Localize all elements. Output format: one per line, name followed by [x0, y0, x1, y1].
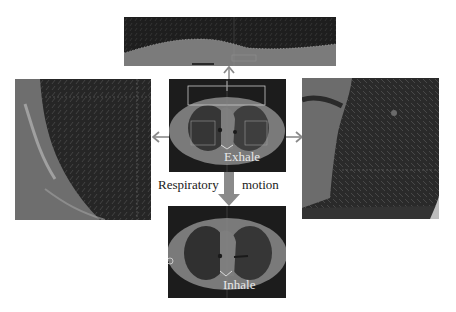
left-zoom-panel [15, 79, 151, 220]
left-arrow-icon [152, 131, 170, 143]
exhale-label: Exhale [224, 149, 260, 165]
respiratory-motion-arrow-icon [218, 172, 240, 207]
right-arrow-icon [286, 131, 303, 143]
chest-wall-image [124, 17, 336, 66]
right-lung-image [302, 78, 439, 219]
motion-label: motion [242, 177, 279, 193]
left-lung-image [15, 79, 151, 220]
inhale-ct-panel: Inhale [168, 206, 286, 298]
respiratory-label: Respiratory [158, 177, 219, 193]
exhale-ct-panel: Exhale [169, 79, 286, 172]
right-zoom-panel [302, 78, 439, 219]
up-arrow-icon [222, 66, 236, 80]
inhale-label: Inhale [223, 277, 255, 293]
top-zoom-panel [124, 17, 336, 66]
